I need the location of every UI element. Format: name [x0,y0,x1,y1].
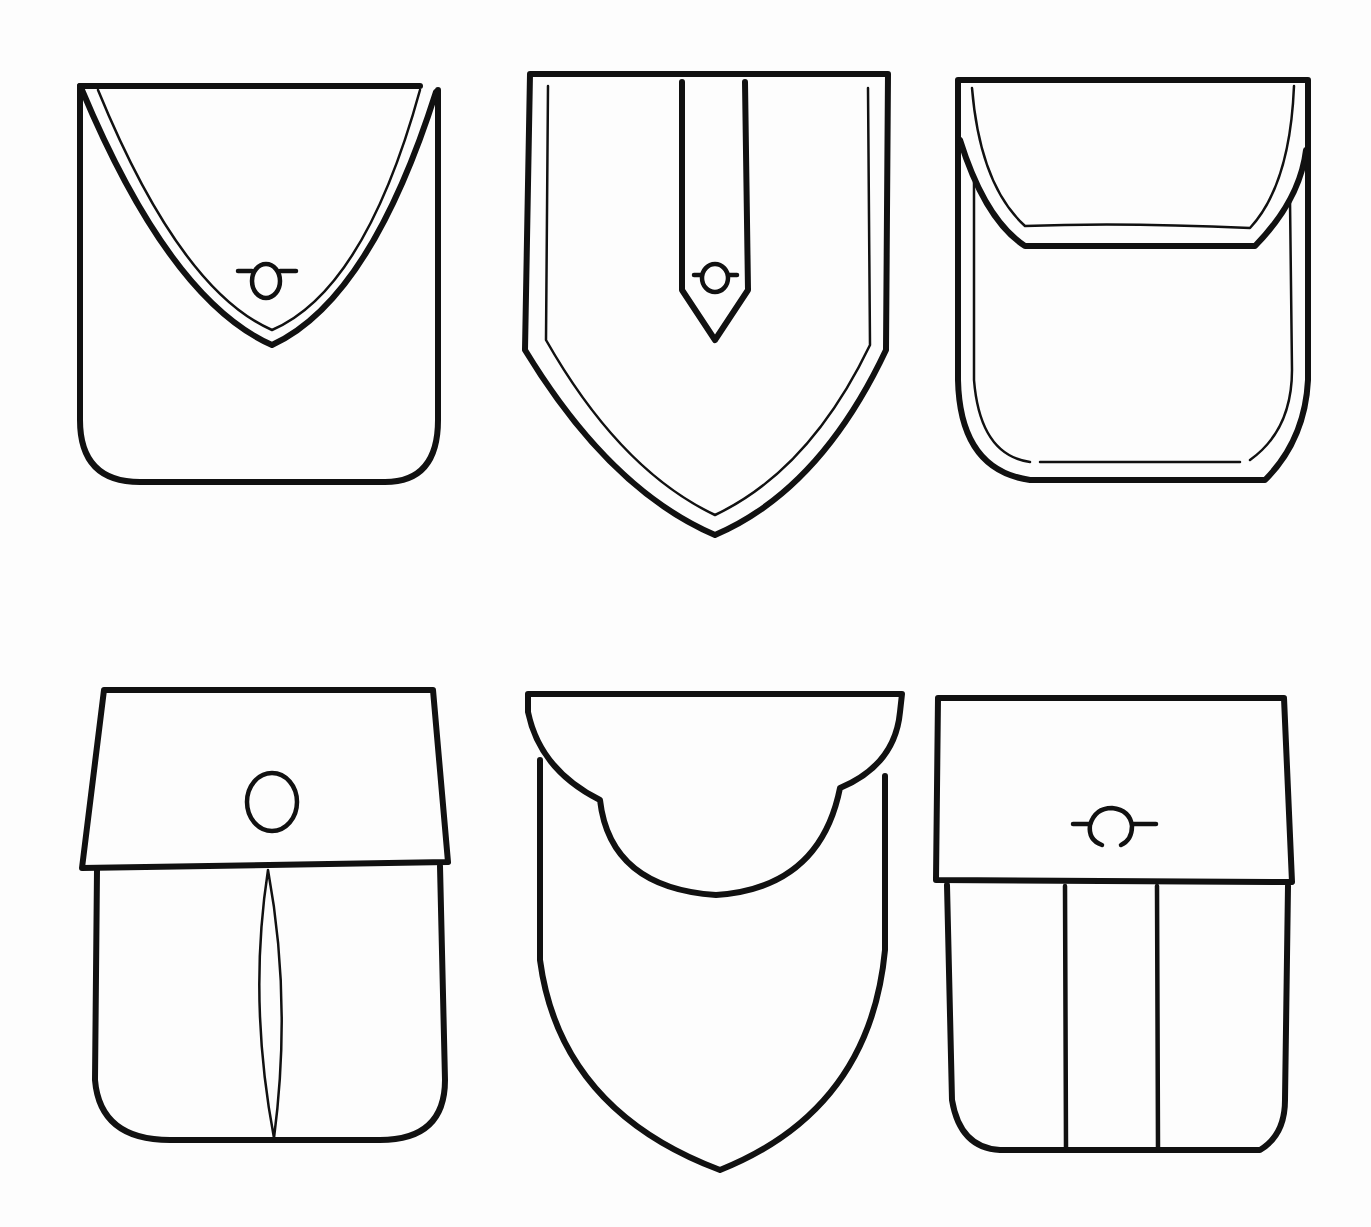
button-icon [694,264,737,292]
pocket-4-trapezoid-flap [82,690,448,1140]
pocket-6-rect-flap-seams [936,698,1292,1150]
pocket-2-shield-tab [525,74,888,535]
pocket-5-scalloped-flap [528,694,902,1170]
button-icon [238,264,296,298]
pocket-designs-illustration [0,0,1371,1227]
pocket-3-rounded-flap [958,80,1308,480]
pocket-1-curved-flap [80,86,438,482]
